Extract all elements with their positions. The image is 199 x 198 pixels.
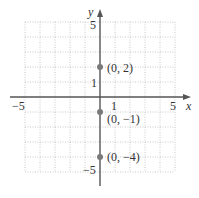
y-tick-one: 1 xyxy=(91,76,97,90)
x-tick-min: −5 xyxy=(12,99,25,113)
x-tick-max: 5 xyxy=(170,99,176,113)
coordinate-plane: x y −5 1 5 5 1 −5 (0, 2) (0, −1) (0, −4) xyxy=(0,0,199,198)
x-axis-label: x xyxy=(185,99,192,113)
point-label-0-neg4: (0, −4) xyxy=(107,150,140,164)
x-tick-one: 1 xyxy=(111,99,117,113)
y-tick-min: −5 xyxy=(83,163,96,177)
y-tick-max: 5 xyxy=(90,18,96,32)
point-0-neg4 xyxy=(97,154,103,160)
point-label-0-2: (0, 2) xyxy=(107,61,133,75)
y-axis-arrow-icon xyxy=(97,9,103,17)
point-0-neg1 xyxy=(97,109,103,115)
point-0-2 xyxy=(97,64,103,70)
point-label-0-neg1: (0, −1) xyxy=(107,112,140,126)
y-axis-label: y xyxy=(87,5,94,19)
